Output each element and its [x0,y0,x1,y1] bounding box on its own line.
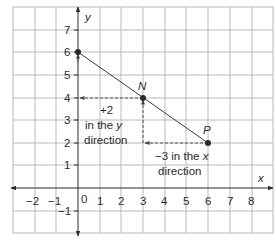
y-tick-3: 3 [64,114,70,126]
y-tick-5: 5 [64,69,70,81]
annotation-x-direction: −3 in the x direction [155,150,210,177]
y-tick-1: 1 [64,159,70,171]
point-P [205,140,211,146]
x-tick-5: 5 [183,195,189,207]
y-tick-4: 4 [64,92,71,104]
y-axis-label: y [84,11,92,23]
x-tick-2: 2 [118,195,124,207]
svg-text:direction: direction [84,134,127,146]
point-N [140,95,146,101]
x-tick-7: 7 [227,195,233,207]
origin-label: 0 [81,193,87,205]
svg-text:direction: direction [158,165,201,177]
svg-text:+2: +2 [100,104,113,116]
y-tick-7: 7 [64,24,70,36]
x-tick-3: 3 [140,195,146,207]
point-N-label: N [138,80,147,92]
x-axis-label: x [257,172,265,184]
point-0-6 [75,49,81,55]
x-tick-1: 1 [97,195,103,207]
svg-text:−3 in the x: −3 in the x [155,150,210,162]
point-P-label: P [203,124,211,136]
coordinate-grid-diagram: y x 7 6 5 4 3 2 1 −1 −2 −1 0 1 2 3 4 5 6… [0,0,276,241]
x-tick-4: 4 [161,195,168,207]
y-ticks [74,30,78,211]
x-tick-minus-2: −2 [26,195,39,207]
y-tick-2: 2 [64,137,70,149]
y-tick-6: 6 [64,46,70,58]
x-tick-minus-1: −1 [48,195,61,207]
x-tick-8: 8 [248,195,254,207]
svg-text:in the y: in the y [85,119,123,131]
x-tick-6: 6 [205,195,211,207]
